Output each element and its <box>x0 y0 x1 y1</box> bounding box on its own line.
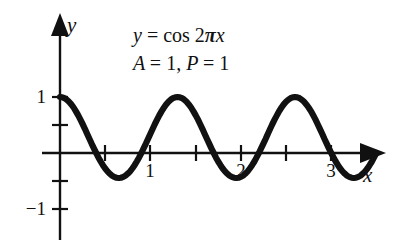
equation-line-2: A = 1, P = 1 <box>133 49 229 77</box>
equation-coefficient: 2 <box>195 24 205 46</box>
annotation-comma: , <box>176 52 181 74</box>
equation-line-1: y = cos 2πx <box>133 21 229 49</box>
cosine-graph-figure: y = cos 2πx A = 1, P = 1 y x 1 2 3 1 −1 <box>0 0 397 252</box>
x-axis-title: x <box>363 163 373 188</box>
y-axis-title: y <box>67 13 77 38</box>
period-symbol: P <box>186 52 198 74</box>
x-tick-label-2: 2 <box>228 160 254 182</box>
x-tick-label-3: 3 <box>318 160 344 182</box>
amplitude-value: 1 <box>166 52 176 74</box>
equation-x-variable: x <box>216 24 225 46</box>
equation-annotation: y = cos 2πx A = 1, P = 1 <box>133 21 229 78</box>
y-tick-label-1: 1 <box>6 86 46 108</box>
x-tick-label-1: 1 <box>137 160 163 182</box>
period-equals-sign: = <box>203 52 214 74</box>
equation-cos-function: cos <box>163 24 190 46</box>
equation-equals-sign: = <box>147 24 158 46</box>
period-value: 1 <box>219 52 229 74</box>
y-tick-label-neg1: −1 <box>6 198 46 220</box>
amplitude-symbol: A <box>133 52 145 74</box>
amplitude-equals-sign: = <box>150 52 161 74</box>
pi-symbol: π <box>205 24 216 46</box>
equation-y-symbol: y <box>133 24 142 46</box>
